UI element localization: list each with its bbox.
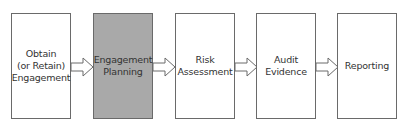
arrow-right-icon <box>70 57 94 77</box>
step-label: Obtain (or Retain) Engagement <box>12 48 71 84</box>
step-label: Reporting <box>345 60 389 72</box>
step-risk-assessment: Risk Assessment <box>175 13 235 119</box>
step-engagement-planning: Engagement Planning <box>93 13 153 119</box>
step-label: Engagement Planning <box>94 54 153 78</box>
step-label: Risk Assessment <box>178 54 233 78</box>
arrow-right-icon <box>234 57 258 77</box>
arrow-right-icon <box>315 57 339 77</box>
step-reporting: Reporting <box>337 13 397 119</box>
step-label: Audit Evidence <box>265 54 307 78</box>
step-audit-evidence: Audit Evidence <box>256 13 316 119</box>
arrow-right-icon <box>152 57 176 77</box>
step-obtain-engagement: Obtain (or Retain) Engagement <box>11 13 71 119</box>
